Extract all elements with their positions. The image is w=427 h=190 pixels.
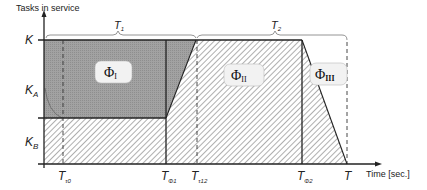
t-tau0-label: Tτ0: [58, 169, 72, 184]
ka-label: KA: [25, 83, 38, 99]
kb-label: KB: [25, 135, 39, 151]
phase-1-label: ΦI: [95, 61, 132, 83]
phase-2-label: ΦII: [224, 64, 264, 86]
t-tau12-label: Tτ12: [191, 169, 208, 184]
brace-t2: [197, 31, 347, 40]
t-end-label: T: [344, 169, 353, 183]
phase-3-label: ΦIII: [310, 63, 347, 85]
t2-label: T2: [271, 19, 282, 32]
brace-t1: [46, 31, 196, 38]
t-phi2-label: TΦ2: [297, 169, 313, 184]
t-phi1-label: TΦ1: [161, 169, 177, 184]
k-label: K: [25, 33, 34, 47]
t1-label: T1: [114, 19, 124, 32]
x-axis-title: Time [sec.]: [366, 169, 410, 179]
x-axis-arrow-icon: [375, 162, 382, 167]
y-axis-title: Tasks in service: [16, 3, 80, 13]
phase-diagram: Tasks in service K KA KB Tτ0 TΦ1 Tτ12 TΦ…: [0, 0, 427, 190]
